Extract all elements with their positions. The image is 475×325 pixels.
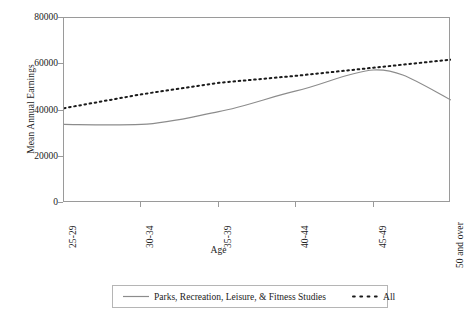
plot-area bbox=[63, 17, 450, 202]
y-tick-label: 0 bbox=[16, 197, 58, 207]
y-tick-label: 60000 bbox=[16, 58, 58, 68]
legend-swatch-solid-line-icon bbox=[123, 292, 149, 301]
chart-legend: Parks, Recreation, Leisure, & Fitness St… bbox=[112, 285, 388, 308]
y-tick-label: 80000 bbox=[16, 12, 58, 22]
legend-entry-all: All bbox=[352, 292, 395, 302]
legend-label-parks: Parks, Recreation, Leisure, & Fitness St… bbox=[154, 292, 326, 302]
series-canvas bbox=[64, 18, 451, 203]
legend-entry-parks: Parks, Recreation, Leisure, & Fitness St… bbox=[123, 292, 326, 302]
x-axis-title-text: Age bbox=[211, 245, 227, 255]
y-tick-label: 40000 bbox=[16, 105, 58, 115]
legend-label-all: All bbox=[383, 292, 395, 302]
legend-swatch-dotted-line-icon bbox=[352, 292, 378, 301]
series-line-all bbox=[64, 60, 451, 109]
chart-figure: Mean Annual Earnings 0 20000 40000 60000… bbox=[0, 0, 475, 325]
y-tick-mark bbox=[58, 202, 63, 203]
x-axis-title: Age bbox=[0, 245, 475, 255]
y-tick-label: 20000 bbox=[16, 151, 58, 161]
y-axis-tick-labels: 0 20000 40000 60000 80000 bbox=[14, 0, 58, 325]
